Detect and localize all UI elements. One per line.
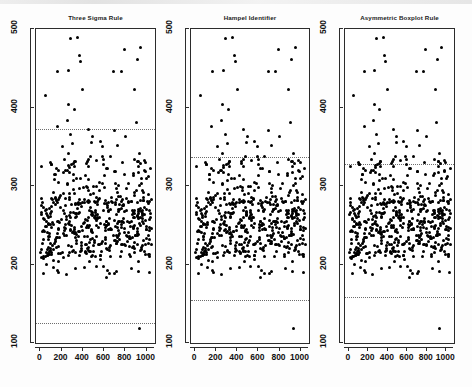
data-point <box>57 245 60 248</box>
data-point <box>394 255 397 258</box>
data-point <box>202 222 205 225</box>
data-point <box>224 245 227 248</box>
data-point <box>375 37 378 40</box>
data-point <box>114 182 117 185</box>
data-point <box>46 254 49 257</box>
data-point <box>49 215 52 218</box>
data-point <box>417 187 420 190</box>
data-point <box>40 197 43 200</box>
data-point <box>205 163 208 166</box>
data-point <box>410 228 413 231</box>
data-point <box>91 135 94 138</box>
data-point <box>139 46 142 49</box>
x-axis-tick-label: 0 <box>192 352 197 362</box>
data-point <box>54 203 57 206</box>
data-point <box>148 238 151 241</box>
data-point <box>408 199 411 202</box>
data-point <box>420 208 423 211</box>
data-point <box>147 175 150 178</box>
data-point <box>233 54 236 57</box>
data-point <box>120 243 123 246</box>
data-point <box>287 251 290 254</box>
data-point <box>349 201 352 204</box>
data-point <box>92 185 95 188</box>
x-axis-tick <box>236 347 237 351</box>
data-point <box>41 201 44 204</box>
data-point <box>431 267 434 270</box>
data-point <box>412 255 415 258</box>
data-point <box>139 199 142 202</box>
data-point <box>373 69 376 72</box>
data-point <box>364 169 367 172</box>
data-point <box>447 193 450 196</box>
data-point <box>402 189 405 192</box>
data-point <box>42 272 45 275</box>
data-point <box>228 226 231 229</box>
data-point <box>365 252 368 255</box>
x-axis-tick <box>406 347 407 351</box>
data-point <box>67 152 70 155</box>
data-point <box>254 250 257 253</box>
data-point <box>229 242 232 245</box>
data-point <box>420 232 423 235</box>
data-point <box>56 232 59 235</box>
data-point <box>116 191 119 194</box>
data-point <box>232 198 235 201</box>
data-point <box>77 235 80 238</box>
data-point <box>228 165 231 168</box>
data-point <box>287 88 290 91</box>
data-point <box>303 212 306 215</box>
data-point <box>47 222 50 225</box>
data-point <box>216 251 219 254</box>
data-point <box>92 192 95 195</box>
data-point <box>45 263 48 266</box>
data-point <box>115 270 118 273</box>
data-point <box>358 226 361 229</box>
data-point <box>226 188 229 191</box>
data-point <box>385 225 388 228</box>
data-point <box>356 232 359 235</box>
data-point <box>74 267 77 270</box>
x-axis-tick-label: 1000 <box>136 352 155 362</box>
data-point <box>98 189 101 192</box>
data-point <box>259 276 262 279</box>
y-axis-tick-label: 500 <box>318 15 328 39</box>
x-axis-tick <box>279 347 280 351</box>
x-axis-tick <box>348 347 349 351</box>
data-point <box>68 198 71 201</box>
y-axis-tick-label: 100 <box>9 329 19 353</box>
data-point <box>53 178 56 181</box>
data-point <box>232 211 235 214</box>
data-point <box>372 119 375 122</box>
data-point <box>222 254 225 257</box>
x-axis-tick <box>387 347 388 351</box>
data-point <box>257 158 260 161</box>
data-point <box>147 242 150 245</box>
data-point <box>253 222 256 225</box>
data-point <box>223 198 226 201</box>
data-point <box>246 231 249 234</box>
data-point <box>424 48 427 51</box>
data-point <box>124 135 127 138</box>
data-point <box>296 239 299 242</box>
data-point <box>440 46 443 49</box>
data-point <box>52 266 55 269</box>
data-point <box>419 195 422 198</box>
data-point <box>87 165 90 168</box>
data-point <box>226 142 229 145</box>
data-point <box>50 226 53 229</box>
data-point <box>150 198 153 201</box>
data-point <box>263 217 266 220</box>
data-point <box>355 246 358 249</box>
data-point <box>231 36 234 39</box>
data-point <box>374 164 377 167</box>
data-point <box>403 258 406 261</box>
data-point <box>210 125 213 128</box>
data-point <box>97 226 100 229</box>
x-axis-tick <box>215 347 216 351</box>
y-axis-tick <box>339 264 343 265</box>
data-point <box>244 206 247 209</box>
data-point <box>94 255 97 258</box>
data-point <box>399 185 402 188</box>
data-point <box>42 238 45 241</box>
